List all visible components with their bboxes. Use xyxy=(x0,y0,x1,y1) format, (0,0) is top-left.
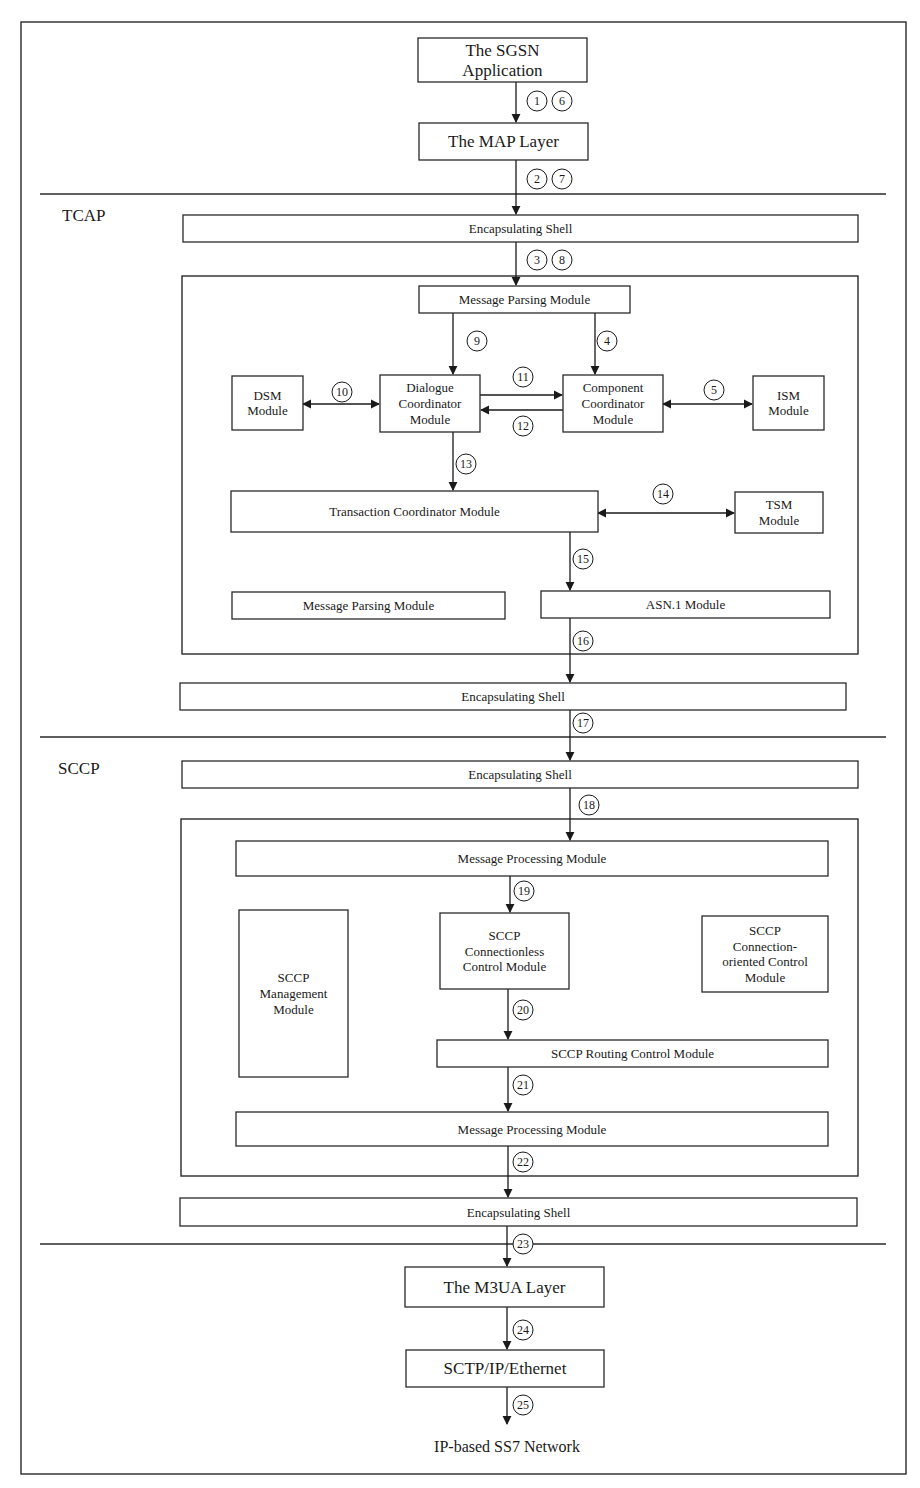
box-label: SCTP/IP/Ethernet xyxy=(444,1359,567,1378)
box-label: Component xyxy=(583,380,644,395)
box-label: Message Parsing Module xyxy=(459,292,591,307)
box-label: Message Processing Module xyxy=(458,1122,607,1137)
box-sctp: SCTP/IP/Ethernet xyxy=(406,1350,604,1387)
step-number: 15 xyxy=(577,552,589,566)
box-label: The M3UA Layer xyxy=(444,1278,566,1297)
box-dsm: DSMModule xyxy=(232,376,303,430)
step-badge: 10 xyxy=(332,382,352,402)
step-badge: 19 xyxy=(514,881,534,901)
box-label: Module xyxy=(768,403,809,418)
box-sccp-routing: SCCP Routing Control Module xyxy=(437,1040,828,1067)
step-badge: 14 xyxy=(653,484,673,504)
step-number: 13 xyxy=(460,457,472,471)
box-tcap-shell-top: Encapsulating Shell xyxy=(183,215,858,242)
step-badge: 24 xyxy=(513,1320,533,1340)
box-label: TSM xyxy=(766,497,793,512)
box-label: SCCP xyxy=(278,970,310,985)
step-badge: 20 xyxy=(513,1000,533,1020)
box-label: The SGSN xyxy=(465,41,539,60)
step-number: 21 xyxy=(517,1078,529,1092)
step-number: 5 xyxy=(711,383,717,397)
box-label: Encapsulating Shell xyxy=(469,221,573,236)
step-number: 4 xyxy=(604,334,610,348)
box-map: The MAP Layer xyxy=(419,123,588,160)
step-badge: 21 xyxy=(513,1075,533,1095)
box-label: Module xyxy=(759,513,800,528)
step-number: 14 xyxy=(657,487,669,501)
step-badge: 3 xyxy=(527,250,547,270)
step-badge: 23 xyxy=(513,1234,533,1254)
step-number: 20 xyxy=(517,1003,529,1017)
box-tcap-shell-bottom: Encapsulating Shell xyxy=(180,683,846,710)
box-m3ua: The M3UA Layer xyxy=(405,1267,604,1307)
step-number: 17 xyxy=(577,716,589,730)
box-sccp-msg-proc-bottom: Message Processing Module xyxy=(236,1112,828,1146)
step-number: 23 xyxy=(517,1237,529,1251)
step-badge: 8 xyxy=(552,250,572,270)
step-number: 11 xyxy=(517,370,529,384)
box-label: Module xyxy=(593,412,634,427)
step-number: 9 xyxy=(474,334,480,348)
step-number: 1 xyxy=(534,94,540,108)
box-label: DSM xyxy=(253,388,282,403)
box-label: Module xyxy=(273,1002,314,1017)
box-label: Control Module xyxy=(463,959,547,974)
box-label: Encapsulating Shell xyxy=(467,1205,571,1220)
box-tcap-msg-parsing-top: Message Parsing Module xyxy=(419,286,630,313)
box-dialogue: DialogueCoordinatorModule xyxy=(380,375,480,432)
step-badge: 18 xyxy=(579,795,599,815)
step-number: 16 xyxy=(577,634,589,648)
box-label: Module xyxy=(247,403,288,418)
terminal-label: IP-based SS7 Network xyxy=(434,1438,580,1455)
step-badge: 11 xyxy=(513,367,533,387)
box-sccp-msg-proc-top: Message Processing Module xyxy=(236,841,828,876)
box-label: Connectionless xyxy=(465,944,544,959)
box-ism: ISMModule xyxy=(753,376,824,430)
box-sccp-mgmt: SCCPManagementModule xyxy=(239,910,348,1077)
box-label: Message Parsing Module xyxy=(303,598,435,613)
tcap-section-label: TCAP xyxy=(62,206,105,225)
box-sccp-connless: SCCPConnectionlessControl Module xyxy=(440,913,569,989)
step-badge: 1 xyxy=(527,91,547,111)
step-number: 6 xyxy=(559,94,565,108)
box-label: Module xyxy=(745,970,786,985)
step-badge: 12 xyxy=(513,416,533,436)
step-number: 22 xyxy=(517,1155,529,1169)
step-badge: 16 xyxy=(573,631,593,651)
box-label: ISM xyxy=(777,388,801,403)
step-badge: 6 xyxy=(552,91,572,111)
box-label: Connection- xyxy=(733,939,797,954)
box-label: Coordinator xyxy=(399,396,462,411)
boxes-layer: The SGSNApplicationThe MAP LayerEncapsul… xyxy=(180,38,858,1387)
box-label: Management xyxy=(260,986,328,1001)
step-number: 12 xyxy=(517,419,529,433)
box-label: Transaction Coordinator Module xyxy=(329,504,500,519)
step-badge: 4 xyxy=(597,331,617,351)
box-tsm: TSMModule xyxy=(735,492,823,533)
protocol-stack-diagram: TCAP SCCP The SGSNApplicationThe MAP Lay… xyxy=(0,0,920,1488)
box-tcap-msg-parsing-bottom: Message Parsing Module xyxy=(232,592,505,619)
step-number: 19 xyxy=(518,884,530,898)
step-badge: 2 xyxy=(527,169,547,189)
step-number: 25 xyxy=(517,1398,529,1412)
step-badge: 25 xyxy=(513,1395,533,1415)
box-label: Coordinator xyxy=(582,396,645,411)
step-number: 2 xyxy=(534,172,540,186)
step-badge: 22 xyxy=(513,1152,533,1172)
box-label: SCCP xyxy=(489,928,521,943)
step-number: 3 xyxy=(534,253,540,267)
box-label: Application xyxy=(462,61,543,80)
box-transaction: Transaction Coordinator Module xyxy=(231,491,598,532)
box-label: The MAP Layer xyxy=(448,132,559,151)
step-badge: 5 xyxy=(704,380,724,400)
step-number: 8 xyxy=(559,253,565,267)
box-label: Encapsulating Shell xyxy=(468,767,572,782)
box-sccp-shell-bottom: Encapsulating Shell xyxy=(180,1198,857,1226)
step-badge: 7 xyxy=(552,169,572,189)
box-label: Message Processing Module xyxy=(458,851,607,866)
step-badge: 9 xyxy=(467,331,487,351)
step-number: 24 xyxy=(517,1323,529,1337)
step-number: 7 xyxy=(559,172,565,186)
box-sccp-connoriented: SCCPConnection-oriented ControlModule xyxy=(702,916,828,992)
box-label: Module xyxy=(410,412,451,427)
